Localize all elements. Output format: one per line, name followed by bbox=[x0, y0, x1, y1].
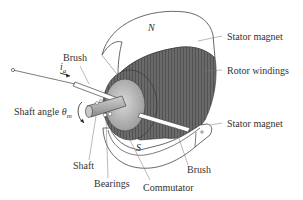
current-label: ia bbox=[60, 62, 66, 75]
stator-magnet-top-label: Stator magnet bbox=[227, 32, 283, 42]
brush-top bbox=[11, 68, 123, 104]
dc-motor-diagram: Brush ia Stator magnet Rotor windings Sh… bbox=[0, 0, 303, 200]
shaft-angle-label: Shaft angle θm bbox=[14, 107, 72, 120]
shaft-rotation-arrow bbox=[78, 102, 84, 123]
theta-subscript: m bbox=[67, 112, 72, 120]
stator-magnet-bottom-label: Stator magnet bbox=[227, 119, 283, 129]
pole-s-label: S bbox=[136, 143, 141, 153]
shaft-label: Shaft bbox=[73, 161, 94, 171]
commutator-label: Commutator bbox=[143, 183, 194, 193]
brush-bottom-label: Brush bbox=[187, 165, 211, 175]
rotor-windings-label: Rotor windings bbox=[227, 66, 289, 76]
current-subscript: a bbox=[63, 67, 67, 75]
bearings-label: Bearings bbox=[94, 179, 130, 189]
shaft-angle-text: Shaft angle bbox=[14, 106, 62, 117]
pole-n-label: N bbox=[148, 23, 155, 33]
brush-top-label: Brush bbox=[63, 53, 87, 63]
